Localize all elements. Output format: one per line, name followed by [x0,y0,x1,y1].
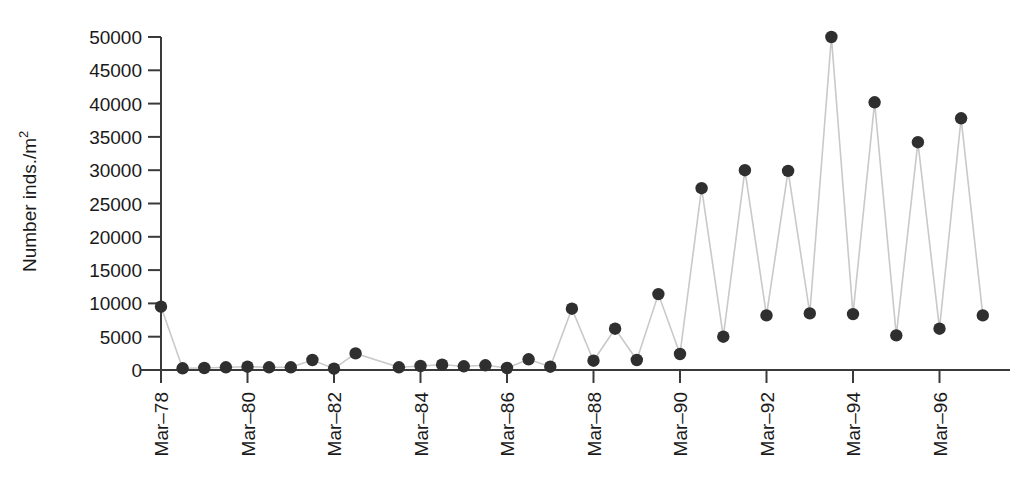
y-tick-label: 20000 [89,227,142,248]
y-axis-label-text: Number inds./m [19,138,40,272]
x-tick-label: Mar–82 [324,392,345,456]
y-axis-label-superscript: 2 [16,131,31,138]
data-point [977,309,989,321]
data-point [631,354,643,366]
x-axis-ticks: Mar–78Mar–80Mar–82Mar–84Mar–86Mar–88Mar–… [151,370,951,456]
data-point [587,355,599,367]
data-point [436,359,448,371]
x-tick-label: Mar–96 [930,392,951,456]
x-tick-label: Mar–90 [670,392,691,456]
data-point [501,362,513,374]
data-point [220,361,232,373]
x-tick-label: Mar–94 [843,392,864,457]
y-tick-label: 10000 [89,293,142,314]
data-point [760,309,772,321]
data-point [479,359,491,371]
data-point [458,360,470,372]
data-point [933,323,945,335]
x-tick-label: Mar–88 [584,392,605,456]
data-point [328,363,340,375]
data-point [674,348,686,360]
data-point [782,165,794,177]
y-tick-label: 35000 [89,127,142,148]
data-point [847,308,859,320]
x-tick-label: Mar–84 [411,392,432,457]
y-tick-label: 5000 [100,327,142,348]
data-point [263,361,275,373]
data-point [349,347,361,359]
y-tick-label: 30000 [89,160,142,181]
data-point [912,136,924,148]
series-line-path [161,37,983,369]
data-point [241,361,253,373]
data-point [393,361,405,373]
y-axis-ticks: 0500010000150002000025000300003500040000… [89,27,161,381]
svg-text:Number inds./m2: Number inds./m2 [16,131,40,272]
y-tick-label: 45000 [89,60,142,81]
data-point [804,307,816,319]
data-point [198,362,210,374]
data-point [739,164,751,176]
data-point [955,112,967,124]
y-tick-label: 50000 [89,27,142,48]
data-point [285,361,297,373]
x-tick-label: Mar–80 [238,392,259,456]
line-chart: Number inds./m2 050001000015000200002500… [0,0,1024,492]
x-tick-label: Mar–78 [151,392,172,456]
y-tick-label: 25000 [89,194,142,215]
data-point [176,362,188,374]
chart-container: Number inds./m2 050001000015000200002500… [0,0,1024,492]
y-tick-label: 15000 [89,260,142,281]
data-point [825,31,837,43]
data-point [544,361,556,373]
data-point [522,353,534,365]
data-point [868,96,880,108]
data-point [609,323,621,335]
data-point [890,329,902,341]
data-point [652,288,664,300]
y-tick-label: 40000 [89,94,142,115]
data-point [717,331,729,343]
data-point [566,303,578,315]
data-point [306,354,318,366]
data-point [695,182,707,194]
x-tick-label: Mar–86 [497,392,518,456]
data-point [155,301,167,313]
y-axis-label: Number inds./m2 [16,131,40,272]
x-tick-label: Mar–92 [757,392,778,456]
data-point [414,360,426,372]
